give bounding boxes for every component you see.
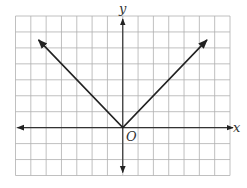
- coordinate-plane: x y O: [0, 0, 247, 188]
- origin-label: O: [126, 129, 137, 144]
- x-axis-label: x: [233, 120, 241, 135]
- y-axis-label: y: [118, 1, 127, 16]
